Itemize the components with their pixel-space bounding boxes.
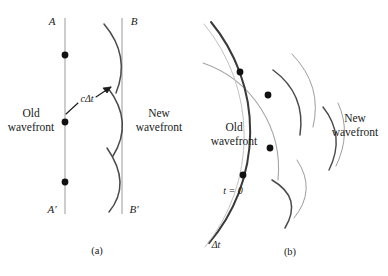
panel-b-old-wavefront-line1: Old bbox=[225, 121, 242, 133]
panel-b-new-wavefront-line1: New bbox=[344, 112, 366, 124]
panel-b-caption: (b) bbox=[284, 246, 296, 257]
panel-a-radius-annotation: cΔt bbox=[80, 94, 93, 105]
radius-arrow-shaft bbox=[96, 87, 111, 97]
wavelet-arc-middle bbox=[108, 88, 122, 156]
panel-b-time-elapsed-label: Δt bbox=[212, 240, 221, 251]
panel-a-caption: (a) bbox=[91, 245, 103, 256]
panel-b-time-initial-label: t = 0 bbox=[223, 186, 243, 197]
radius-arrow-head bbox=[103, 87, 111, 93]
panel-a-label-b: B bbox=[131, 16, 138, 28]
huygens-principle-figure: A B A′ B′ Old wavefront New wavefront cΔ… bbox=[0, 0, 388, 276]
panel-b-new-wavefront-line2: wavefront bbox=[332, 126, 379, 138]
wavelet-arc-b-lower-inner bbox=[272, 180, 292, 228]
wavelet-arc-b-middle-inner bbox=[323, 107, 336, 170]
source-point-middle bbox=[62, 119, 69, 126]
source-point-b-lower bbox=[265, 92, 272, 99]
wavelet-arc-bottom bbox=[107, 148, 120, 212]
panel-b-old-wavefront-line2: wavefront bbox=[211, 135, 258, 147]
panel-a-new-wavefront-line1: New bbox=[148, 107, 170, 119]
wavelet-arc-b-upper-outer bbox=[292, 54, 315, 127]
panel-a-old-wavefront-line1: Old bbox=[22, 107, 39, 119]
radius-leader-line bbox=[66, 103, 78, 114]
panel-a-label-b-prime: B′ bbox=[129, 204, 138, 216]
panel-a-new-wavefront-line2: wavefront bbox=[136, 121, 183, 133]
source-point-b-upper bbox=[237, 69, 244, 76]
panel-a-label-a-prime: A′ bbox=[47, 204, 56, 216]
panel-a-old-wavefront-line2: wavefront bbox=[8, 121, 55, 133]
panel-b-drawing bbox=[0, 0, 388, 276]
panel-a-drawing bbox=[0, 0, 388, 276]
wavelet-arc-b-lower-outer bbox=[294, 160, 306, 218]
source-point-b-fourth bbox=[240, 172, 247, 179]
wavelet-arc-top bbox=[104, 24, 121, 93]
source-point-b-third bbox=[267, 145, 274, 152]
source-point-bottom bbox=[62, 179, 69, 186]
source-point-top bbox=[62, 52, 69, 59]
panel-a-label-a: A bbox=[49, 16, 56, 28]
wavelet-arc-b-upper-inner bbox=[273, 70, 301, 135]
